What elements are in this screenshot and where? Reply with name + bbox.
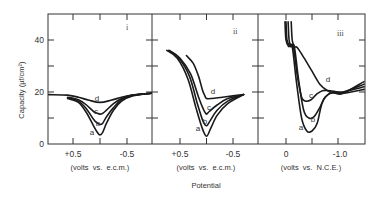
x-caption-ii: (volts vs. e.c.m.): [177, 163, 236, 172]
panel-label-i: i: [126, 23, 129, 32]
curve-label-iii-c: c: [309, 91, 313, 100]
panel-label-iii: iii: [337, 29, 344, 38]
x-tick-i-right: -0.5: [120, 149, 135, 159]
curve-label-iii-b: b: [311, 115, 316, 124]
y-tick-20: 20: [35, 87, 45, 97]
curve-label-i-a: a: [90, 128, 95, 137]
x-caption-iii: (volts vs. N.C.E.): [281, 163, 342, 172]
y-tick-0: 0: [39, 139, 44, 149]
curve-labels: abcdabcdabcd: [90, 75, 330, 137]
curve-label-ii-a: a: [196, 124, 201, 133]
y-axis-label: Capacity (µf/cm²): [17, 61, 26, 119]
curve-label-i-c: c: [94, 107, 98, 116]
curve-label-iii-d: d: [326, 75, 330, 84]
curve-i-a: [68, 93, 152, 135]
x-tick-iii-left: 0: [284, 149, 289, 159]
curve-label-ii-c: c: [207, 103, 211, 112]
curve-label-ii-d: d: [211, 87, 215, 96]
curve-label-i-d: d: [95, 94, 99, 103]
x-tick-i-left: +0.5: [65, 149, 82, 159]
curve-label-ii-b: b: [203, 117, 208, 126]
x-caption-i: (volts vs. e.c.m.): [71, 163, 130, 172]
x-tick-ii-left: +0.5: [172, 149, 189, 159]
curve-label-iii-a: a: [299, 123, 304, 132]
y-tick-40: 40: [35, 35, 45, 45]
x-axis-label: Potential: [191, 181, 221, 190]
panel-label-ii: ii: [233, 27, 238, 36]
curve-i-d: [49, 93, 152, 102]
curve-label-i-b: b: [96, 119, 101, 128]
x-tick-iii-right: -1.0: [333, 149, 348, 159]
capacity-potential-chart: 0 20 40 Capacity (µf/cm²) i ii iii +0.5 …: [0, 0, 382, 197]
x-tick-ii-right: -0.5: [226, 149, 241, 159]
